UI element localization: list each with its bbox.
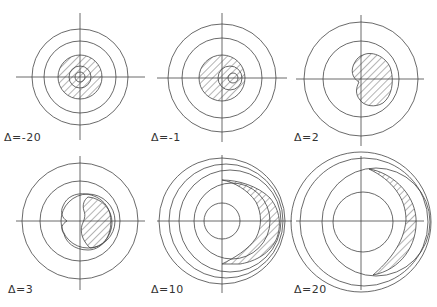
panel-label: Δ=2	[294, 131, 319, 144]
panel-label: Δ=20	[294, 283, 327, 296]
panel-delta-2	[296, 15, 424, 146]
panel-delta-10	[157, 155, 292, 293]
panel-label: Δ=3	[8, 283, 33, 296]
panel-label: Δ=-20	[4, 131, 41, 144]
panel-label: Δ=-1	[151, 131, 181, 144]
figure-canvas	[0, 0, 437, 307]
panel-delta-minus-1	[157, 13, 287, 142]
panel-delta-minus-20	[16, 13, 145, 140]
panel-delta-3	[16, 156, 145, 290]
panel-label: Δ=10	[151, 283, 184, 296]
panel-delta-20	[291, 152, 431, 292]
